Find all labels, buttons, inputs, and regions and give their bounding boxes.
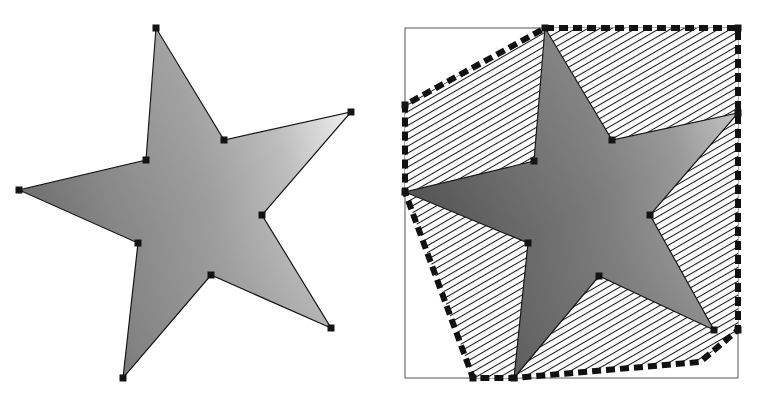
star-vertex-marker: [531, 158, 538, 165]
convex-hull-vertex-marker: [735, 327, 742, 334]
convex-hull-vertex-marker: [735, 110, 742, 117]
star-vertex-marker: [328, 325, 335, 332]
star-vertex-marker: [609, 137, 616, 144]
star-vertex-marker: [647, 212, 654, 219]
star-vertex-marker: [348, 109, 355, 116]
star-polygon-shading-overlay: [19, 28, 351, 378]
convex-hull-vertex-marker: [511, 375, 518, 382]
star-vertex-marker: [153, 25, 160, 32]
convex-hull-panel: [380, 0, 761, 399]
convex-hull-vertex-marker: [735, 25, 742, 32]
star-vertex-marker: [135, 240, 142, 247]
star-vertex-marker: [259, 212, 266, 219]
star-vertex-marker: [120, 375, 127, 382]
star-vertex-marker: [208, 272, 215, 279]
star-vertex-marker: [221, 137, 228, 144]
convex-hull-canvas: [380, 0, 761, 399]
star-vertex-marker: [16, 187, 23, 194]
convex-hull-vertex-marker: [402, 102, 409, 109]
star-polygon-canvas: [0, 0, 380, 399]
star-vertex-marker: [143, 157, 150, 164]
star-vertex-marker: [596, 273, 603, 280]
star-shape-group: [19, 28, 351, 378]
star-polygon-panel: [0, 0, 380, 399]
convex-hull-vertex-marker: [711, 327, 718, 334]
figure-root: [0, 0, 761, 399]
convex-hull-vertex-marker: [542, 25, 549, 32]
convex-hull-vertex-marker: [470, 375, 477, 382]
convex-hull-vertex-marker: [402, 189, 409, 196]
star-vertex-marker: [525, 240, 532, 247]
